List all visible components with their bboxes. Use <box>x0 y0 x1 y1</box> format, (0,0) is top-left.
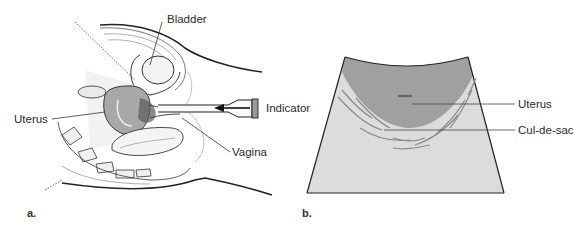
panel-letter-a: a. <box>27 207 36 219</box>
label-cul-de-sac: Cul-de-sac <box>518 125 574 137</box>
panel-b-ultrasound: Uterus Cul-de-sac b. <box>290 0 579 227</box>
probe-indicator-marker <box>252 99 258 118</box>
label-uterus-a: Uterus <box>14 114 48 126</box>
ultrasound-sector-schematic <box>290 0 579 227</box>
label-uterus-b: Uterus <box>518 99 552 111</box>
label-bladder: Bladder <box>167 14 207 26</box>
label-vagina: Vagina <box>232 147 267 159</box>
panel-a-anatomy: Bladder Uterus Vagina Indicator a. <box>0 0 290 227</box>
panel-letter-b: b. <box>302 207 312 219</box>
